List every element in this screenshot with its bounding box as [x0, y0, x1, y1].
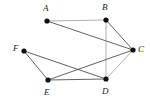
vertex-label-f: F	[13, 44, 19, 53]
graph-figure: ABCDEF	[0, 0, 150, 100]
graph-edge-a-b	[47, 20, 106, 21]
edge-layer	[24, 20, 133, 80]
vertex-label-b: B	[102, 3, 108, 12]
vertex-label-a: A	[43, 4, 49, 13]
graph-edge-d-f	[24, 51, 106, 79]
vertex-layer	[21, 17, 135, 82]
vertex-label-c: C	[138, 45, 144, 54]
graph-edge-d-e	[48, 79, 106, 80]
graph-vertex-f	[21, 48, 26, 53]
graph-edge-c-e	[48, 50, 133, 80]
vertex-label-d: D	[102, 87, 109, 96]
graph-vertex-b	[103, 17, 108, 22]
graph-vertex-c	[130, 47, 135, 52]
graph-vertex-e	[45, 77, 50, 82]
vertex-label-e: E	[44, 88, 50, 97]
graph-vertex-a	[44, 18, 49, 23]
graph-canvas	[0, 0, 150, 100]
graph-vertex-d	[103, 76, 108, 81]
